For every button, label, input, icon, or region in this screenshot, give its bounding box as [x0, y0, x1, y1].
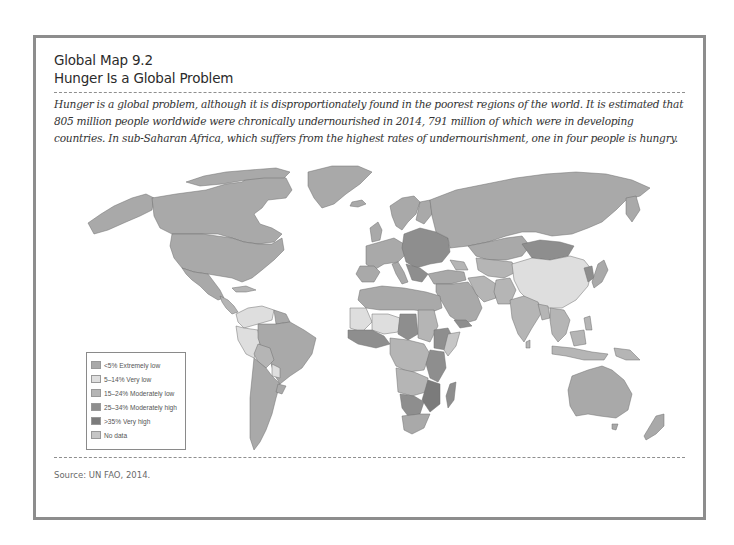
legend-item: >35% Very high [91, 414, 181, 428]
region-russia [430, 172, 650, 248]
region-kamchatka [626, 196, 640, 222]
region-guianas [274, 310, 290, 324]
legend-label: >35% Very high [104, 418, 150, 425]
legend-swatch-moderately-high [91, 403, 101, 411]
region-east-africa [426, 350, 446, 382]
legend-swatch-very-high [91, 417, 101, 425]
region-papua-new-guinea [614, 348, 640, 360]
legend-label: No data [104, 432, 127, 439]
legend-swatch-no-data [91, 431, 101, 439]
legend-item: 5–14% Very low [91, 372, 181, 386]
region-philippines [584, 316, 592, 330]
map-legend: <5% Extremely low 5–14% Very low 15–24% … [86, 352, 186, 450]
region-uk [370, 222, 382, 242]
region-north-africa [358, 286, 442, 312]
region-japan [592, 260, 608, 288]
region-caribbean [232, 286, 256, 292]
region-indonesia [552, 346, 608, 360]
region-borneo [570, 330, 586, 346]
region-namibia-botswana [400, 394, 424, 416]
region-madagascar [446, 382, 456, 408]
legend-swatch-very-low [91, 375, 101, 383]
region-tasmania [612, 424, 618, 430]
legend-label: <5% Extremely low [104, 362, 160, 369]
legend-swatch-extremely-low [91, 361, 101, 369]
region-chad [398, 314, 418, 340]
region-italy [392, 262, 408, 284]
region-turkey [428, 270, 466, 284]
legend-label: 25–34% Moderately high [104, 404, 177, 411]
region-southeast-asia [550, 308, 570, 342]
region-alaska [88, 194, 154, 234]
region-central-africa [390, 338, 430, 372]
region-central-america [220, 296, 238, 314]
legend-item: <5% Extremely low [91, 358, 181, 372]
legend-swatch-moderately-low [91, 389, 101, 397]
region-australia [568, 366, 632, 418]
region-india [510, 296, 542, 342]
region-scandinavia [390, 196, 420, 230]
region-uruguay [276, 384, 286, 394]
region-iberia [356, 266, 380, 282]
legend-item: 15–24% Moderately low [91, 386, 181, 400]
region-central-asia [476, 258, 516, 278]
source-note: Source: UN FAO, 2014. [54, 470, 150, 480]
region-south-africa [402, 414, 430, 434]
bottom-divider [54, 457, 685, 458]
region-new-zealand [644, 414, 664, 440]
region-south-asia-east [538, 304, 550, 320]
region-sahel [372, 314, 400, 334]
region-sri-lanka [526, 340, 530, 348]
region-canada [152, 174, 292, 244]
region-caucasus [450, 260, 468, 270]
map-figure-frame: Global Map 9.2 Hunger Is a Global Proble… [33, 35, 706, 520]
legend-item: No data [91, 428, 181, 442]
region-west-africa-north [350, 308, 372, 332]
legend-label: 15–24% Moderately low [104, 390, 174, 397]
legend-item: 25–34% Moderately high [91, 400, 181, 414]
region-angola-zambia [396, 368, 428, 396]
region-iceland [350, 200, 366, 207]
legend-label: 5–14% Very low [104, 376, 151, 383]
